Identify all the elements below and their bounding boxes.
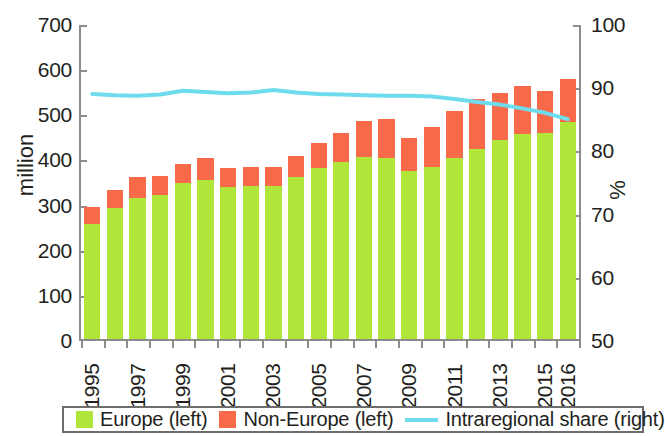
x-axis-tick-mark bbox=[81, 341, 83, 348]
x-axis-ticks bbox=[81, 341, 579, 348]
y-axis-left-tick-label: 500 bbox=[38, 103, 72, 127]
x-axis-tick-mark bbox=[511, 341, 513, 348]
legend-label: Intraregional share (right) bbox=[445, 408, 664, 431]
y-axis-left-tick-label: 0 bbox=[61, 329, 72, 353]
x-axis-tick-mark bbox=[217, 341, 219, 348]
y-axis-left-tick-label: 200 bbox=[38, 239, 72, 263]
legend-item[interactable]: Europe (left) bbox=[76, 408, 207, 431]
y-axis-right-tick-label: 90 bbox=[591, 76, 614, 100]
y-axis-right-title: % bbox=[605, 160, 631, 220]
x-axis-tick-mark bbox=[375, 341, 377, 348]
x-axis-tick-mark bbox=[353, 341, 355, 348]
x-axis-tick-mark bbox=[194, 341, 196, 348]
legend-label: Europe (left) bbox=[100, 408, 207, 431]
x-axis-tick-mark bbox=[466, 341, 468, 348]
y-axis-left-title: million bbox=[13, 105, 39, 225]
y-axis-right-tick-label: 50 bbox=[591, 329, 614, 353]
y-axis-left-tick-label: 300 bbox=[38, 194, 72, 218]
x-axis-tick-mark bbox=[262, 341, 264, 348]
x-axis-tick-mark bbox=[239, 341, 241, 348]
y-axis-left-tick-label: 700 bbox=[38, 13, 72, 37]
y-axis-left-tick-label: 600 bbox=[38, 58, 72, 82]
x-axis-tick-mark bbox=[307, 341, 309, 348]
line-series-layer bbox=[81, 25, 579, 339]
x-axis-tick-mark bbox=[285, 341, 287, 348]
x-axis-tick-mark bbox=[104, 341, 106, 348]
x-axis-tick-mark bbox=[126, 341, 128, 348]
y-axis-left-tick-label: 100 bbox=[38, 284, 72, 308]
x-axis-tick-mark bbox=[330, 341, 332, 348]
legend-color-swatch bbox=[76, 411, 93, 428]
x-axis-tick-mark bbox=[443, 341, 445, 348]
x-axis-labels: 1995199719992001200320052007200920112013… bbox=[81, 348, 579, 404]
legend-item[interactable]: Non-Europe (left) bbox=[219, 408, 393, 431]
y-axis-right-tick-label: 100 bbox=[591, 13, 625, 37]
y-axis-left-tick-label: 400 bbox=[38, 148, 72, 172]
intraregional-share-line bbox=[92, 90, 567, 119]
x-axis-tick-mark bbox=[534, 341, 536, 348]
x-axis-tick-mark bbox=[579, 341, 581, 348]
x-axis-tick-mark bbox=[421, 341, 423, 348]
legend-item[interactable]: Intraregional share (right) bbox=[405, 408, 664, 431]
x-axis-tick-mark bbox=[149, 341, 151, 348]
x-axis-tick-mark bbox=[172, 341, 174, 348]
y-axis-right-tick-label: 60 bbox=[591, 266, 614, 290]
legend-color-swatch bbox=[219, 411, 236, 428]
legend-label: Non-Europe (left) bbox=[243, 408, 393, 431]
x-axis-tick-mark bbox=[556, 341, 558, 348]
x-axis-tick-mark bbox=[488, 341, 490, 348]
x-axis-tick-mark bbox=[398, 341, 400, 348]
chart-legend: Europe (left)Non-Europe (left)Intraregio… bbox=[62, 406, 644, 433]
legend-line-marker bbox=[405, 418, 438, 422]
